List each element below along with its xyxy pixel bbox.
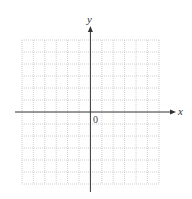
coordinate-plane	[0, 0, 192, 199]
y-axis	[88, 26, 93, 192]
x-axis-label: x	[178, 106, 183, 117]
y-axis-label: y	[87, 14, 92, 25]
origin-label: 0	[93, 115, 98, 125]
x-axis-arrow-icon	[170, 110, 176, 115]
y-axis-arrow-icon	[88, 26, 93, 32]
